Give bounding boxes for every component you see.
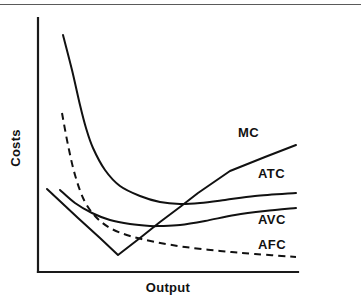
x-axis-title: Output	[146, 280, 191, 295]
cost-curves-figure: MC ATC AVC AFC Costs Output	[0, 0, 361, 296]
mc-curve-label: MC	[238, 125, 259, 140]
curve-labels-group: MC ATC AVC AFC	[238, 125, 286, 252]
axis-titles-group: Costs Output	[8, 129, 191, 295]
y-axis-title: Costs	[8, 129, 23, 167]
atc-curve-label: ATC	[258, 166, 285, 181]
axes-group	[38, 18, 298, 272]
cost-curves-chart: MC ATC AVC AFC Costs Output	[0, 0, 361, 296]
afc-curve-label: AFC	[258, 237, 286, 252]
avc-curve-label: AVC	[258, 212, 286, 227]
